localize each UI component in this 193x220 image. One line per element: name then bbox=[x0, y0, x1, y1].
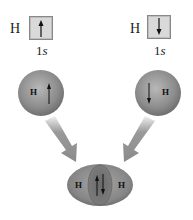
left-bonding-arrow-icon bbox=[45, 116, 77, 162]
left-sphere-label: H bbox=[30, 88, 37, 97]
right-atom-sphere bbox=[135, 70, 181, 116]
right-sphere-label: H bbox=[162, 88, 169, 97]
molecule-right-label: H bbox=[118, 181, 125, 190]
right-bonding-arrow-icon bbox=[123, 116, 155, 162]
bonding-diagram bbox=[0, 0, 193, 220]
left-atom-sphere bbox=[18, 70, 64, 116]
molecule-left-label: H bbox=[75, 181, 82, 190]
